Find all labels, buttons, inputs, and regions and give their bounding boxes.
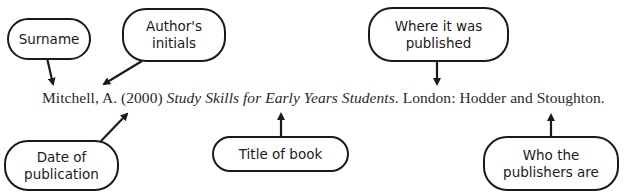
arrow-surname xyxy=(47,58,53,84)
citation-title: Study Skills for Early Years Students xyxy=(167,89,395,106)
label-date-text: Date of publication xyxy=(24,149,99,183)
citation-title-period: . xyxy=(395,89,399,106)
label-initials: Author's initials xyxy=(122,8,226,62)
label-initials-text: Author's initials xyxy=(146,18,202,52)
label-publisher-text: Who the publishers are xyxy=(503,147,599,181)
label-place-text: Where it was published xyxy=(395,18,483,52)
label-surname: Surname xyxy=(7,18,91,60)
label-place: Where it was published xyxy=(368,7,509,62)
arrow-date xyxy=(101,114,127,141)
citation-year: (2000) xyxy=(121,89,163,106)
citation-place: London: xyxy=(403,89,456,106)
citation-publisher: Hodder and Stoughton. xyxy=(459,89,604,106)
citation-text: Mitchell, A. (2000) Study Skills for Ear… xyxy=(42,89,605,107)
label-publisher: Who the publishers are xyxy=(483,136,619,191)
label-surname-text: Surname xyxy=(19,31,80,48)
label-title-text: Title of book xyxy=(239,146,322,163)
label-date: Date of publication xyxy=(4,140,119,191)
arrow-initials xyxy=(104,61,142,84)
label-title: Title of book xyxy=(212,136,349,172)
citation-author: Mitchell, A. xyxy=(42,89,117,106)
